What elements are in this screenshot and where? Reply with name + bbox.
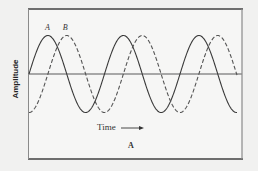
series-label-a: A	[45, 23, 50, 32]
y-axis-label: Amplitude	[11, 59, 20, 98]
panel-label: A	[128, 141, 134, 150]
plot-background	[29, 9, 243, 159]
series-label-b: B	[63, 23, 68, 32]
chart: A B Amplitude Time A	[0, 0, 258, 171]
x-axis-label: Time	[97, 122, 116, 132]
